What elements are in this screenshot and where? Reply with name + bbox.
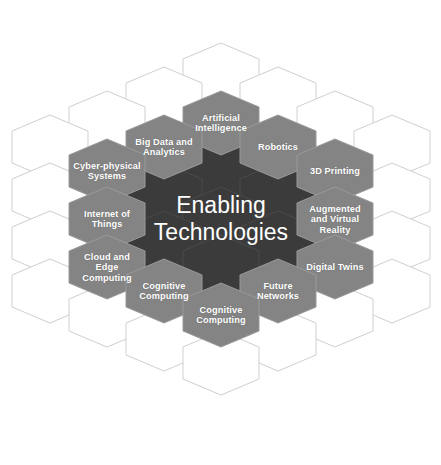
hexagon-grid (0, 0, 441, 465)
enabling-technologies-hex-diagram: Artificial IntelligenceBig Data and Anal… (0, 0, 441, 465)
